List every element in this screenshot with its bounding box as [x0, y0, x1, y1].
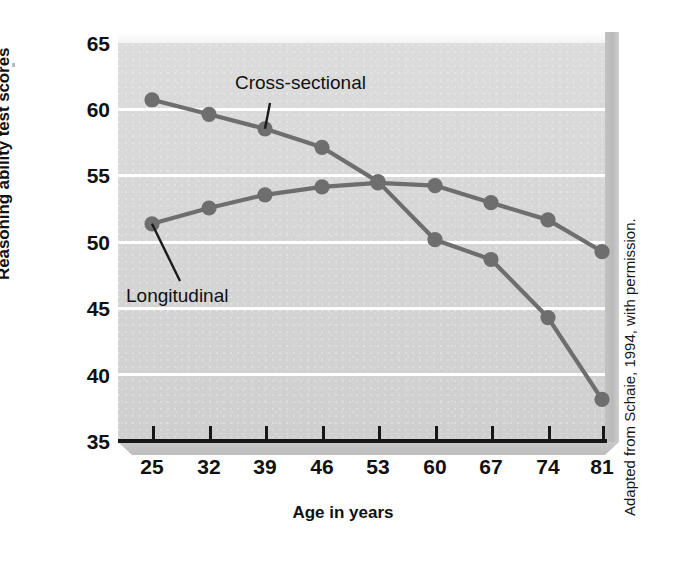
- y-axis-title: Reasoning ability test scores: [0, 48, 14, 280]
- x-axis-baseline: [118, 439, 607, 443]
- data-point: [370, 175, 385, 190]
- y-tick-label: 40: [64, 365, 110, 386]
- x-tick-label: 32: [179, 455, 239, 479]
- data-point: [540, 310, 555, 325]
- y-tick-label: 45: [64, 298, 110, 319]
- data-point: [144, 92, 159, 107]
- plot-top-bevel: [118, 32, 605, 43]
- figure-reasoning-ability-chart: Reasoning ability test scores 65 60 55 5…: [0, 0, 686, 561]
- x-tick-label: 60: [405, 455, 465, 479]
- y-axis-tick-labels: 65 60 55 50 45 40 35: [52, 0, 110, 561]
- x-tick-label: 39: [235, 455, 295, 479]
- y-tick-label: 60: [64, 99, 110, 120]
- data-point: [594, 392, 609, 407]
- data-point: [201, 107, 216, 122]
- data-point: [201, 200, 216, 215]
- annotation-leader-line: [152, 224, 180, 281]
- y-tick-label: 55: [64, 165, 110, 186]
- data-point: [427, 178, 442, 193]
- figure-credit: Adapted from Schaie, 1994, with permissi…: [621, 218, 638, 516]
- data-point: [427, 232, 442, 247]
- plot-bottom-bevel: [118, 442, 619, 455]
- y-tick-label: 50: [64, 232, 110, 253]
- data-point: [257, 187, 272, 202]
- annotation-longitudinal: Longitudinal: [126, 285, 228, 307]
- x-tick-label: 67: [461, 455, 521, 479]
- plot-side-bevel: [605, 32, 619, 442]
- data-series-layer: [118, 43, 605, 442]
- data-point: [540, 212, 555, 227]
- series-line-longitudinal: [152, 183, 602, 252]
- x-tick-label: 53: [348, 455, 408, 479]
- data-point: [314, 140, 329, 155]
- plot-area: [118, 43, 605, 442]
- data-point: [594, 244, 609, 259]
- x-tick-label: 25: [122, 455, 182, 479]
- plot-region: Cross-sectional Longitudinal: [118, 43, 605, 442]
- y-tick-label: 35: [64, 431, 110, 452]
- data-point: [314, 179, 329, 194]
- data-point: [483, 252, 498, 267]
- series-line-cross-sectional: [152, 100, 602, 400]
- y-tick-label: 65: [64, 33, 110, 54]
- x-axis-title: Age in years: [0, 503, 686, 523]
- x-tick-label: 74: [518, 455, 578, 479]
- x-tick-label: 46: [292, 455, 352, 479]
- annotation-cross-sectional: Cross-sectional: [235, 72, 366, 94]
- data-point: [483, 195, 498, 210]
